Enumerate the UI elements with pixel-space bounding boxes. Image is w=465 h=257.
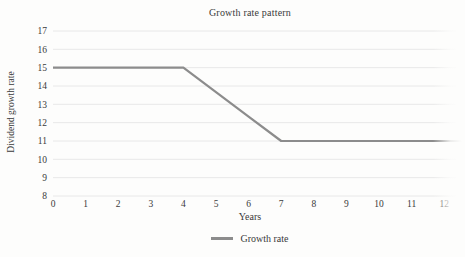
x-tick-label: 4 <box>181 199 186 209</box>
x-tick-label: 5 <box>214 199 219 209</box>
y-tick-label: 10 <box>38 155 48 165</box>
x-tick-label: 3 <box>148 199 153 209</box>
y-tick-label: 9 <box>42 173 47 183</box>
y-tick-label: 15 <box>38 63 48 73</box>
y-tick-label: 17 <box>38 26 48 36</box>
legend: Growth rate <box>40 233 460 244</box>
y-tick-label: 16 <box>38 45 48 55</box>
y-tick-label: 11 <box>38 136 47 146</box>
x-tick-label: 10 <box>374 199 384 209</box>
x-tick-label: 7 <box>279 199 284 209</box>
x-tick-label: 11 <box>407 199 416 209</box>
x-tick-label: 6 <box>246 199 251 209</box>
chart-figure: Growth rate pattern Dividend growth rate… <box>0 0 465 257</box>
legend-label: Growth rate <box>240 233 288 244</box>
x-tick-label: 1 <box>83 199 88 209</box>
y-tick-label: 8 <box>42 191 47 201</box>
x-tick-label: 8 <box>311 199 316 209</box>
y-tick-label: 13 <box>38 100 48 110</box>
y-tick-label: 12 <box>38 118 48 128</box>
x-tick-label: 9 <box>344 199 349 209</box>
x-tick-label: 12 <box>439 199 449 209</box>
x-tick-label: 0 <box>51 199 56 209</box>
x-axis-label: Years <box>40 211 460 222</box>
x-tick-label: 2 <box>116 199 121 209</box>
legend-line-swatch <box>211 237 233 240</box>
y-tick-label: 14 <box>38 81 48 91</box>
